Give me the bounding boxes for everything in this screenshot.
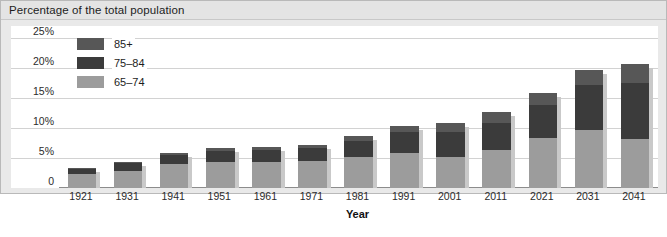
chart-title-bar: Percentage of the total population	[1, 1, 666, 20]
legend-item[interactable]: 85+	[77, 35, 147, 52]
bar-segment[interactable]	[160, 155, 189, 164]
bar-stack	[160, 153, 189, 188]
legend-swatch	[77, 38, 104, 50]
bar-group[interactable]	[160, 26, 189, 188]
bar-segment[interactable]	[621, 64, 650, 83]
bar-segment[interactable]	[482, 112, 511, 123]
bar-segment[interactable]	[344, 141, 373, 157]
bar-shadow	[142, 166, 146, 188]
bar-group[interactable]	[390, 26, 419, 188]
bar-stack	[529, 93, 558, 188]
bar-segment[interactable]	[252, 162, 281, 188]
chart-figure: Percentage of the total population 05%10…	[0, 0, 667, 237]
bar-segment[interactable]	[529, 138, 558, 188]
bar-group[interactable]	[344, 26, 373, 188]
x-tick-label: 2001	[438, 190, 461, 202]
x-tick-label: 1941	[162, 190, 185, 202]
y-tick-label: 20%	[33, 55, 54, 67]
bar-stack	[575, 70, 604, 188]
y-tick-label: 25%	[33, 25, 54, 37]
y-tick-mark	[11, 98, 59, 99]
bar-shadow	[327, 149, 331, 188]
bar-segment[interactable]	[482, 123, 511, 149]
y-axis: 05%10%15%20%25%	[11, 26, 59, 188]
bar-stack	[344, 136, 373, 188]
x-tick-label: 1951	[208, 190, 231, 202]
bar-segment[interactable]	[68, 174, 97, 188]
bar-stack	[68, 168, 97, 188]
bar-group[interactable]	[529, 26, 558, 188]
bar-segment[interactable]	[206, 151, 235, 162]
bar-segment[interactable]	[529, 105, 558, 139]
x-tick-label: 1921	[69, 190, 92, 202]
bar-segment[interactable]	[575, 70, 604, 85]
bar-segment[interactable]	[160, 164, 189, 188]
bar-segment[interactable]	[114, 171, 143, 188]
bar-stack	[436, 123, 465, 188]
bar-shadow	[603, 74, 607, 188]
bar-segment[interactable]	[482, 150, 511, 188]
bar-segment[interactable]	[575, 130, 604, 188]
x-tick-label: 2041	[622, 190, 645, 202]
bar-stack	[114, 162, 143, 188]
y-tick-label: 5%	[39, 145, 54, 157]
bar-stack	[252, 147, 281, 188]
bar-shadow	[188, 157, 192, 188]
legend-label: 75–84	[112, 57, 147, 69]
bar-stack	[482, 112, 511, 188]
legend-swatch	[77, 57, 104, 69]
chart-legend: 85+75–8465–74	[77, 35, 147, 92]
bar-segment[interactable]	[114, 163, 143, 170]
x-tick-label: 1981	[346, 190, 369, 202]
y-tick-mark	[11, 158, 59, 159]
bars-layer	[59, 26, 658, 188]
bar-segment[interactable]	[436, 157, 465, 188]
bar-segment[interactable]	[621, 139, 650, 188]
legend-label: 85+	[112, 38, 135, 50]
bar-segment[interactable]	[436, 132, 465, 158]
bar-segment[interactable]	[298, 161, 327, 188]
bar-shadow	[281, 151, 285, 188]
bar-group[interactable]	[482, 26, 511, 188]
bar-segment[interactable]	[298, 148, 327, 161]
bar-segment[interactable]	[344, 157, 373, 188]
bar-segment[interactable]	[252, 150, 281, 162]
bar-shadow	[557, 97, 561, 188]
legend-item[interactable]: 65–74	[77, 73, 147, 90]
bar-shadow	[649, 68, 653, 188]
bar-segment[interactable]	[206, 162, 235, 188]
bar-group[interactable]	[621, 26, 650, 188]
bar-group[interactable]	[436, 26, 465, 188]
bar-group[interactable]	[252, 26, 281, 188]
bar-segment[interactable]	[575, 85, 604, 131]
legend-label: 65–74	[112, 76, 147, 88]
bar-stack	[621, 64, 650, 188]
x-axis-title: Year	[58, 208, 657, 220]
plot-frame: 05%10%15%20%25% 85+75–8465–74	[11, 26, 658, 188]
x-tick-label: 1961	[254, 190, 277, 202]
x-tick-label: 2021	[530, 190, 553, 202]
bar-segment[interactable]	[390, 153, 419, 188]
bar-shadow	[373, 140, 377, 188]
y-tick-mark	[11, 38, 59, 39]
bar-group[interactable]	[575, 26, 604, 188]
bar-shadow	[511, 116, 515, 188]
bar-segment[interactable]	[436, 123, 465, 132]
bar-shadow	[96, 172, 100, 188]
bar-group[interactable]	[298, 26, 327, 188]
bar-shadow	[419, 130, 423, 188]
y-tick-label: 10%	[33, 115, 54, 127]
y-tick-mark	[11, 68, 59, 69]
bar-stack	[298, 145, 327, 188]
bar-segment[interactable]	[390, 132, 419, 152]
y-tick-label: 15%	[33, 85, 54, 97]
chart-panel: Percentage of the total population 05%10…	[0, 0, 667, 194]
bar-group[interactable]	[206, 26, 235, 188]
legend-item[interactable]: 75–84	[77, 54, 147, 71]
bar-segment[interactable]	[621, 83, 650, 139]
x-tick-label: 1991	[392, 190, 415, 202]
page-title: Percentage of the total population	[9, 4, 184, 16]
bar-segment[interactable]	[529, 93, 558, 105]
bar-stack	[206, 148, 235, 188]
bar-shadow	[465, 127, 469, 188]
